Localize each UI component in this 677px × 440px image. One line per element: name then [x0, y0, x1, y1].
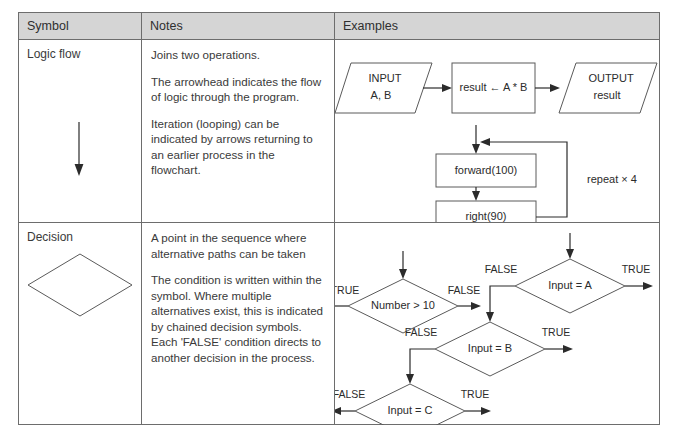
cell-symbol-logic-flow: Logic flow: [19, 40, 141, 222]
column-header-examples: Examples: [334, 13, 659, 39]
flow-node-output-line1: OUTPUT: [588, 72, 634, 84]
decision-node-inputA: Input = A: [515, 259, 625, 313]
connector-process-output: [535, 84, 560, 92]
flow-node-forward: forward(100): [436, 154, 536, 187]
branch-label-inputC-false: FALSE: [335, 388, 365, 400]
branch-label-inputB-true: TRUE: [542, 326, 571, 338]
branch-inputA-false: FALSE: [485, 263, 518, 322]
flow-node-input: INPUT A, B: [335, 63, 432, 113]
branch-inputB-false: FALSE: [405, 326, 438, 384]
flow-node-right-label: right(90): [466, 210, 507, 222]
connector-into-number10: [399, 251, 407, 279]
branch-number10-true: TRUE: [335, 284, 359, 310]
down-arrow-icon: [19, 40, 141, 222]
logic-flow-example-diagram: INPUT A, B result ← A * B: [335, 40, 659, 222]
branch-inputC-true: TRUE: [461, 388, 491, 415]
note-paragraph: Joins two operations.: [151, 47, 324, 63]
decision-node-inputC-label: Input = C: [388, 404, 433, 416]
cell-notes-logic-flow: Joins two operations. The arrowhead indi…: [142, 40, 334, 222]
branch-number10-false: FALSE: [448, 284, 481, 310]
flow-node-input-line2: A, B: [371, 89, 392, 101]
diamond-icon: [19, 223, 141, 425]
cell-examples-decision: Number > 10 TRUE FALSE: [335, 223, 659, 425]
branch-label-number10-true: TRUE: [335, 284, 359, 296]
note-paragraph: The arrowhead indicates the flow of logi…: [151, 74, 324, 105]
symbol-name-label: Decision: [27, 230, 73, 244]
symbols-table: Symbol Notes Examples Logic flow Joins t…: [18, 12, 660, 425]
decision-node-number10: Number > 10: [348, 279, 458, 333]
flow-node-forward-label: forward(100): [455, 164, 517, 176]
decision-node-inputC: Input = C: [355, 384, 465, 425]
table-header-row: Symbol Notes Examples: [19, 13, 659, 40]
connector-loop-entry: [472, 125, 480, 154]
connector-into-inputA: [566, 233, 574, 259]
decision-node-inputB-label: Input = B: [468, 342, 512, 354]
flow-node-output-line2: result: [594, 89, 621, 101]
decision-example-diagram: Number > 10 TRUE FALSE: [335, 223, 659, 425]
branch-inputA-true: TRUE: [622, 263, 653, 290]
decision-node-number10-label: Number > 10: [371, 299, 435, 311]
flow-node-right: right(90): [436, 201, 536, 222]
cell-examples-logic-flow: INPUT A, B result ← A * B: [335, 40, 659, 222]
flow-node-process: result ← A * B: [452, 63, 535, 113]
decision-node-inputA-label: Input = A: [548, 279, 592, 291]
flow-node-input-line1: INPUT: [369, 72, 402, 84]
note-paragraph: Iteration (looping) can be indicated by …: [151, 116, 324, 178]
flow-node-output: OUTPUT result: [559, 63, 657, 113]
symbol-name-label: Logic flow: [27, 47, 80, 61]
cell-notes-decision: A point in the sequence where alternativ…: [142, 223, 334, 425]
column-header-notes: Notes: [141, 13, 334, 39]
branch-label-inputA-false: FALSE: [485, 263, 518, 275]
branch-label-inputC-true: TRUE: [461, 388, 490, 400]
cell-symbol-decision: Decision: [19, 223, 141, 425]
table-row: Logic flow Joins two operations. The arr…: [19, 40, 659, 222]
connector-forward-right: [472, 187, 480, 201]
flow-node-process-label: result ← A * B: [460, 81, 528, 93]
branch-label-number10-false: FALSE: [448, 284, 481, 296]
note-paragraph: A point in the sequence where alternativ…: [151, 230, 324, 261]
branch-inputB-true: TRUE: [542, 326, 573, 353]
connector-loop-back: [480, 138, 567, 217]
decision-node-inputB: Input = B: [435, 322, 545, 376]
branch-label-inputA-true: TRUE: [622, 263, 651, 275]
branch-inputC-false: FALSE: [335, 388, 365, 415]
connector-input-process: [423, 84, 452, 92]
table-row: Decision A point in the sequence where a…: [19, 223, 659, 425]
column-header-symbol: Symbol: [19, 13, 141, 39]
note-paragraph: The condition is written within the symb…: [151, 272, 324, 365]
loop-annotation-repeat: repeat × 4: [587, 173, 637, 185]
branch-label-inputB-false: FALSE: [405, 326, 438, 338]
